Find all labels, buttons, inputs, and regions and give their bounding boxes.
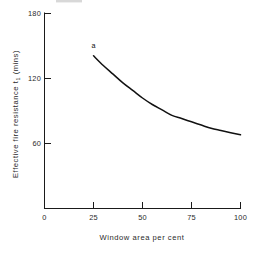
chart-canvas: 180 120 60 0 25 50 75 100 Window area pe…	[0, 0, 271, 254]
x-axis-ticks	[94, 202, 241, 209]
chart-figure: 180 120 60 0 25 50 75 100 Window area pe…	[0, 0, 271, 254]
y-tick-label-60: 60	[32, 139, 41, 148]
curve-label-a: a	[92, 41, 96, 50]
y-axis-title: Effective fire resistance t1 (mins)	[11, 50, 21, 178]
y-tick-label-120: 120	[28, 74, 41, 83]
x-tick-label-75: 75	[187, 213, 196, 222]
x-tick-label-25: 25	[89, 213, 98, 222]
y-tick-label-180: 180	[28, 9, 41, 18]
x-tick-label-50: 50	[138, 213, 147, 222]
x-axis-title: Window area per cent	[100, 233, 185, 242]
x-tick-label-0: 0	[42, 213, 46, 222]
y-axis-title-tail: (mins)	[11, 50, 20, 77]
x-tick-label-100: 100	[234, 213, 247, 222]
y-axis-ticks	[45, 14, 52, 144]
data-curve-a	[94, 56, 241, 135]
scan-smudge	[56, 0, 82, 2]
y-axis-title-main: Effective fire resistance t	[11, 80, 20, 178]
